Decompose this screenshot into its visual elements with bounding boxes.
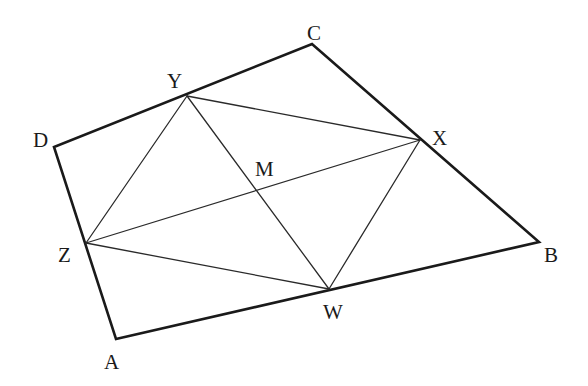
quadrilateral-abcd [54, 44, 539, 339]
label-w: W [323, 300, 343, 324]
segment-zx [86, 140, 420, 243]
segment-xw [329, 140, 420, 289]
label-b: B [544, 243, 558, 267]
segment-zy [86, 96, 187, 243]
quadrilateral-outline [54, 44, 539, 339]
segment-yx [187, 96, 420, 140]
label-c: C [307, 21, 321, 45]
geometry-diagram: A B C D W X Y Z M [0, 0, 588, 386]
label-a: A [104, 350, 120, 374]
segment-wz [86, 243, 329, 289]
label-d: D [33, 128, 48, 152]
label-m: M [255, 157, 274, 181]
segment-yw [187, 96, 329, 289]
label-y: Y [167, 69, 182, 93]
point-labels: A B C D W X Y Z M [33, 21, 558, 374]
parallelogram-wxyz-with-diagonals [86, 96, 420, 289]
label-x: X [432, 126, 447, 150]
label-z: Z [58, 243, 71, 267]
